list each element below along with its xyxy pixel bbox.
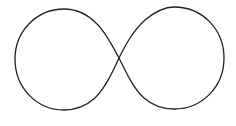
infinity-diagram bbox=[0, 0, 236, 126]
infinity-curve bbox=[15, 7, 224, 110]
